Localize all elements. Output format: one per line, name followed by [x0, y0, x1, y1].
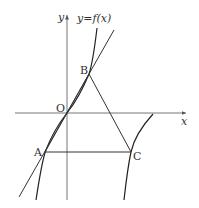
- point-label-B: B: [80, 64, 88, 77]
- function-graph-figure: y y=f(x) x O B A C: [0, 0, 199, 208]
- function-label: y=f(x): [76, 12, 111, 25]
- y-axis-label: y: [57, 11, 65, 24]
- x-axis-label: x: [181, 115, 188, 128]
- point-label-A: A: [33, 146, 43, 159]
- origin-label: O: [56, 102, 65, 115]
- point-label-C: C: [133, 150, 141, 163]
